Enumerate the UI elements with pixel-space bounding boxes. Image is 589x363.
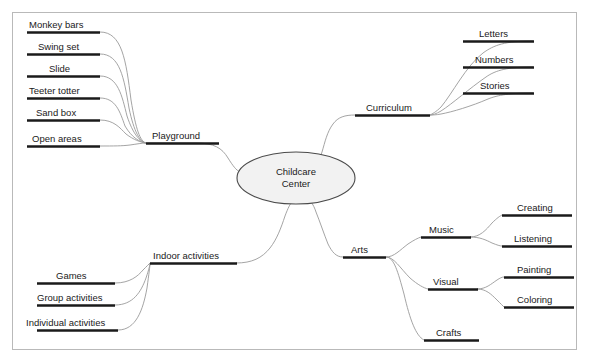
node-music[interactable]: Music bbox=[421, 224, 471, 238]
node-curriculum[interactable]: Curriculum bbox=[355, 102, 430, 116]
node-label: Games bbox=[56, 270, 87, 281]
node-playground[interactable]: Playground bbox=[146, 130, 219, 144]
node-arts[interactable]: Arts bbox=[343, 244, 386, 258]
node-slide[interactable]: Slide bbox=[27, 63, 100, 77]
node-label: Sand box bbox=[36, 107, 76, 118]
node-label: Open areas bbox=[32, 133, 82, 144]
node-individual-activities[interactable]: Individual activities bbox=[26, 317, 118, 331]
mind-map-diagram: Monkey bars Swing set Slide Teeter totte… bbox=[0, 0, 589, 363]
node-label: Visual bbox=[433, 276, 459, 287]
connector-numbers bbox=[430, 67, 533, 115]
mind-map-canvas: Monkey bars Swing set Slide Teeter totte… bbox=[0, 0, 589, 363]
node-monkey-bars[interactable]: Monkey bars bbox=[27, 19, 100, 33]
node-crafts[interactable]: Crafts bbox=[424, 327, 479, 341]
node-indoor-activities[interactable]: Indoor activities bbox=[150, 250, 237, 264]
node-label: Crafts bbox=[436, 327, 462, 338]
center-label-line2: Center bbox=[282, 178, 311, 189]
node-label: Numbers bbox=[475, 54, 514, 65]
node-label: Creating bbox=[517, 202, 553, 213]
node-label: Monkey bars bbox=[29, 19, 84, 30]
node-label: Group activities bbox=[37, 292, 103, 303]
node-games[interactable]: Games bbox=[37, 270, 115, 284]
connector-listening bbox=[470, 237, 502, 246]
node-numbers[interactable]: Numbers bbox=[463, 54, 534, 68]
node-label: Listening bbox=[514, 233, 552, 244]
node-painting[interactable]: Painting bbox=[504, 264, 574, 278]
node-letters[interactable]: Letters bbox=[463, 28, 534, 42]
node-label: Slide bbox=[49, 63, 70, 74]
node-stories[interactable]: Stories bbox=[463, 80, 534, 94]
node-group-activities[interactable]: Group activities bbox=[37, 292, 115, 306]
connector-open-areas bbox=[100, 143, 146, 146]
connector-indoor-to-center bbox=[236, 202, 292, 263]
node-listening[interactable]: Listening bbox=[502, 233, 572, 247]
node-label: Teeter totter bbox=[29, 85, 80, 96]
node-label: Painting bbox=[517, 264, 551, 275]
connector-arts-crafts bbox=[386, 257, 424, 340]
connector-creating bbox=[470, 215, 502, 237]
node-swing-set[interactable]: Swing set bbox=[27, 41, 100, 55]
node-label: Arts bbox=[351, 244, 368, 255]
connector-arts-music bbox=[386, 237, 421, 257]
connector-playground-to-center bbox=[146, 143, 240, 172]
node-label: Swing set bbox=[38, 41, 80, 52]
node-teeter-totter[interactable]: Teeter totter bbox=[27, 85, 100, 99]
connector-monkey-bars bbox=[100, 32, 146, 143]
connector-painting bbox=[477, 277, 504, 289]
connector-arts-to-center bbox=[310, 201, 343, 257]
node-visual[interactable]: Visual bbox=[428, 276, 478, 290]
connector-coloring bbox=[477, 289, 504, 307]
node-creating[interactable]: Creating bbox=[502, 202, 572, 216]
node-open-areas[interactable]: Open areas bbox=[27, 133, 100, 147]
node-label: Stories bbox=[480, 80, 510, 91]
connector-slide bbox=[100, 76, 146, 143]
node-label: Playground bbox=[152, 130, 200, 141]
node-label: Coloring bbox=[517, 294, 552, 305]
connector-letters bbox=[430, 41, 533, 115]
connector-stories bbox=[430, 93, 533, 115]
connector-games bbox=[115, 263, 150, 283]
connector-individual-activities bbox=[118, 263, 150, 330]
node-label: Individual activities bbox=[26, 317, 105, 328]
center-node-childcare-center[interactable]: Childcare Center bbox=[237, 152, 355, 204]
center-label-line1: Childcare bbox=[276, 166, 316, 177]
node-label: Indoor activities bbox=[153, 250, 219, 261]
connector-arts-visual bbox=[386, 257, 428, 289]
node-coloring[interactable]: Coloring bbox=[504, 294, 574, 308]
connector-swing-set bbox=[100, 54, 146, 143]
node-label: Curriculum bbox=[366, 102, 412, 113]
node-label: Music bbox=[429, 224, 454, 235]
node-sand-box[interactable]: Sand box bbox=[27, 107, 100, 121]
node-label: Letters bbox=[479, 28, 508, 39]
